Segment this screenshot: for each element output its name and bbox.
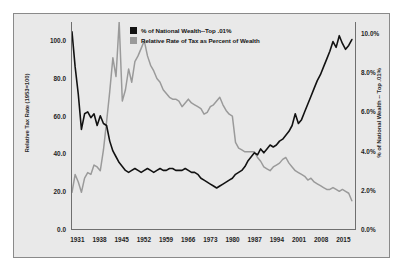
left-axis-tick-label: 100.0 <box>32 37 66 44</box>
x-axis-tick-label: 2015 <box>328 236 358 243</box>
left-axis-tick-label: 60.0 <box>32 113 66 120</box>
right-axis-tick-label: 4.0% <box>361 148 395 155</box>
right-axis-tick-label: 8.0% <box>361 69 395 76</box>
left-axis-tick-label: 0.0 <box>32 226 66 233</box>
right-axis-tick-label: 2.0% <box>361 187 395 194</box>
legend-item: % of National Wealth--Top .01% <box>130 26 260 34</box>
chart-legend: % of National Wealth--Top .01%Relative R… <box>127 24 263 48</box>
series-line-relative-tax-rate <box>72 22 352 201</box>
left-axis-tick-label: 40.0 <box>32 150 66 157</box>
legend-color-swatch <box>130 27 137 34</box>
legend-item: Relative Rate of Tax as Percent of Wealt… <box>130 36 260 44</box>
left-axis-tick-label: 20.0 <box>32 188 66 195</box>
legend-item-label: Relative Rate of Tax as Percent of Wealt… <box>141 37 260 44</box>
legend-item-label: % of National Wealth--Top .01% <box>141 27 231 34</box>
plot-area <box>71 22 356 230</box>
series-line-national-wealth-share <box>72 32 352 188</box>
left-axis-title: Relative Tax Rate (1953=100) <box>24 48 30 178</box>
left-axis-tick-label: 80.0 <box>32 75 66 82</box>
right-axis-tick-label: 0.0% <box>361 226 395 233</box>
right-axis-tick-label: 10.0% <box>361 30 395 37</box>
figure-container: Relative Tax Rate (1953=100) % of Nation… <box>13 13 390 258</box>
legend-color-swatch <box>130 37 137 44</box>
chart-lines <box>72 22 355 229</box>
right-axis-tick-label: 6.0% <box>361 108 395 115</box>
